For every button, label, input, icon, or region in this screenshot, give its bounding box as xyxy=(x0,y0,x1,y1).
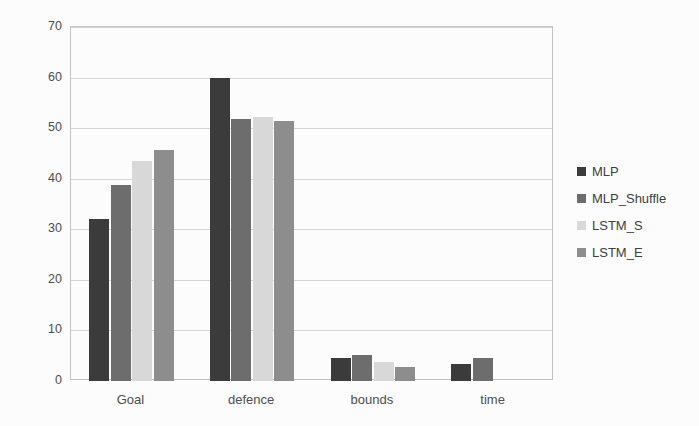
legend-marker-icon xyxy=(577,248,586,257)
bar-MLP_Shuffle-bounds xyxy=(352,355,372,381)
y-tick-label-70: 70 xyxy=(28,19,62,33)
bar-MLP-Goal xyxy=(89,219,109,381)
bar-MLP-time xyxy=(451,364,471,381)
bar-LSTM_S-Goal xyxy=(132,161,152,381)
y-tick-label-50: 50 xyxy=(28,120,62,134)
y-tick-label-40: 40 xyxy=(28,171,62,185)
legend-item-MLP_Shuffle: MLP_Shuffle xyxy=(577,185,666,212)
bar-MLP_Shuffle-time xyxy=(473,358,493,381)
legend-label: LSTM_S xyxy=(592,218,643,233)
gridline-50 xyxy=(71,128,552,129)
gridline-60 xyxy=(71,78,552,79)
legend-item-MLP: MLP xyxy=(577,158,666,185)
y-tick-label-10: 10 xyxy=(28,322,62,336)
bar-LSTM_E-Goal xyxy=(154,150,174,381)
y-tick-label-30: 30 xyxy=(28,221,62,235)
legend-marker-icon xyxy=(577,221,586,230)
gridline-70 xyxy=(71,27,552,28)
y-tick-label-20: 20 xyxy=(28,272,62,286)
legend-label: LSTM_E xyxy=(592,245,643,260)
bar-LSTM_E-defence xyxy=(274,121,294,381)
x-category-label-defence: defence xyxy=(191,392,312,407)
bar-MLP_Shuffle-Goal xyxy=(111,185,131,381)
legend-label: MLP_Shuffle xyxy=(592,191,666,206)
bar-LSTM_S-bounds xyxy=(374,362,394,381)
legend-item-LSTM_E: LSTM_E xyxy=(577,239,666,266)
bar-MLP-bounds xyxy=(331,358,351,381)
plot-area xyxy=(70,26,553,380)
bar-LSTM_S-defence xyxy=(253,117,273,381)
legend: MLPMLP_ShuffleLSTM_SLSTM_E xyxy=(577,158,666,266)
legend-label: MLP xyxy=(592,164,619,179)
y-tick-label-60: 60 xyxy=(28,70,62,84)
bar-chart-figure: 010203040506070 Goaldefenceboundstime ML… xyxy=(0,0,699,426)
legend-item-LSTM_S: LSTM_S xyxy=(577,212,666,239)
x-category-label-time: time xyxy=(432,392,553,407)
y-tick-label-0: 0 xyxy=(28,373,62,387)
legend-marker-icon xyxy=(577,167,586,176)
legend-marker-icon xyxy=(577,194,586,203)
bar-LSTM_E-bounds xyxy=(395,367,415,381)
x-category-label-bounds: bounds xyxy=(312,392,433,407)
x-category-label-Goal: Goal xyxy=(70,392,191,407)
bar-MLP_Shuffle-defence xyxy=(231,119,251,381)
bar-MLP-defence xyxy=(210,78,230,381)
